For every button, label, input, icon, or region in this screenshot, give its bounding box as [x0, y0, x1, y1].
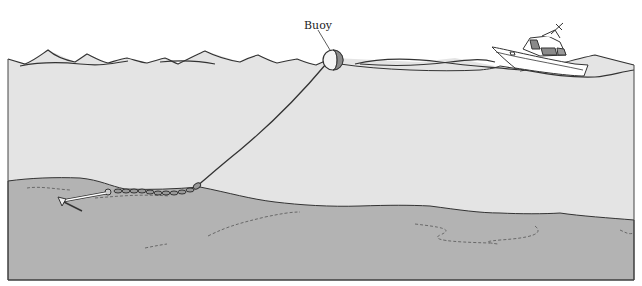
buoy	[323, 50, 343, 70]
anchoring-illustration	[0, 0, 642, 286]
boat	[492, 23, 588, 76]
buoy-label: Buoy	[304, 19, 332, 32]
buoy-leader-line	[318, 30, 330, 50]
